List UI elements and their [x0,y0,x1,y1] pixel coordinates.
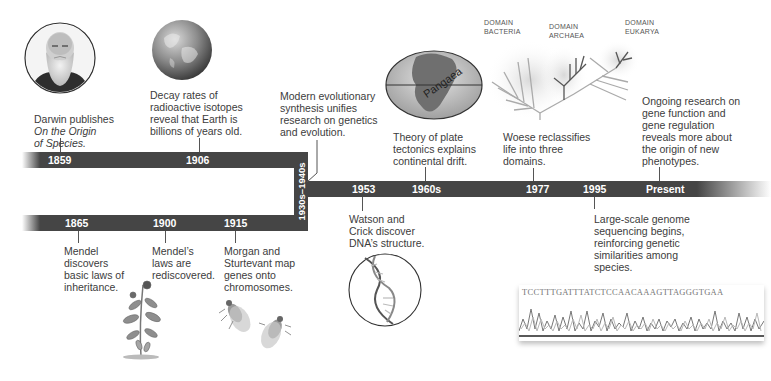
event-text-1906: Decay rates of radioactive isotopes reve… [150,89,243,137]
event-text-1977: Woese reclassifies life into three domai… [503,131,590,167]
pea-plant-icon [105,275,175,360]
pangaea-map-icon: Pangaea [382,45,486,125]
tick-1906 [199,138,200,152]
tree-of-life-icon [490,30,650,130]
tick-1930s-1940s [306,140,320,185]
fruit-flies-icon [215,295,295,355]
domain-eukarya-label: DOMAIN EUKARYA [625,18,659,36]
tick-present [659,167,660,181]
chromatogram-peaks-icon [519,299,764,341]
tick-1900 [165,231,166,243]
sequence-text: TCCTTTGATTTATCTCCAACAAAGTTAGGGTGAA [522,287,724,297]
year-1995: 1995 [583,181,606,197]
event-text-1915: Morgan and Sturtevant map genes onto chr… [224,245,295,293]
domain-archaea-label: DOMAIN ARCHAEA [549,22,584,40]
event-text-1930s-1940s: Modern evolutionary synthesis unifies re… [280,90,377,138]
year-1960s: 1960s [412,181,441,197]
event-text-present: Ongoing research on gene function and ge… [642,95,740,167]
year-1906: 1906 [186,152,209,168]
year-1977: 1977 [526,181,549,197]
event-text-1859: Darwin publishesOn the Origin of Species… [34,101,114,149]
year-1865: 1865 [65,215,88,231]
dna-helix-icon [347,252,423,328]
event-text-1960s: Theory of plate tectonics explains conti… [393,131,476,167]
year-1915: 1915 [224,215,247,231]
domain-bacteria-label: DOMAIN BACTERIA [484,18,521,36]
event-text-1953: Watson and Crick discover DNA’s structur… [349,213,424,249]
tick-1960s [425,167,426,181]
tick-1953 [362,197,363,211]
earth-globe-icon [150,18,214,82]
tick-1977 [533,168,534,181]
sequence-chromatogram: TCCTTTGATTTATCTCCAACAAAGTTAGGGTGAA [519,285,764,341]
tick-1915 [235,231,236,243]
year-1859: 1859 [48,152,71,168]
year-1953: 1953 [352,181,375,197]
event-text-1995: Large-scale genome sequencing begins, re… [594,213,690,273]
year-present: Present [646,181,685,197]
darwin-portrait-icon [24,22,96,94]
tick-1865 [78,231,79,243]
tick-1995 [594,197,595,209]
year-1900: 1900 [153,215,176,231]
